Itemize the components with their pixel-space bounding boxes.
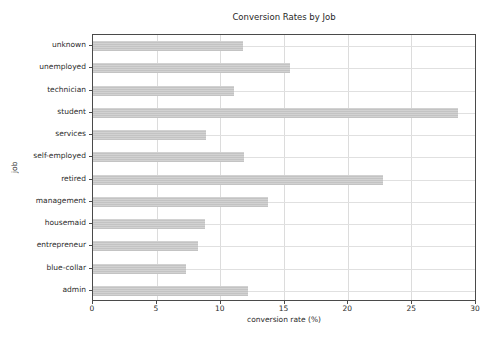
y-tick-mark (89, 179, 92, 180)
bar-technician (93, 86, 234, 96)
bar-admin (93, 286, 248, 296)
y-tick-mark (89, 134, 92, 135)
y-tick-label: housemaid (0, 218, 86, 228)
bar-management (93, 197, 268, 207)
y-tick-label: admin (0, 285, 86, 295)
bar-services (93, 130, 206, 140)
y-tick-mark (89, 90, 92, 91)
y-tick-mark (89, 45, 92, 46)
x-tick-label: 25 (406, 304, 416, 313)
x-tick-label: 10 (215, 304, 225, 313)
gridline-vertical (284, 35, 285, 300)
y-tick-mark (89, 201, 92, 202)
bar-student (93, 108, 458, 118)
y-tick-label: self-employed (0, 151, 86, 161)
bar-retired (93, 175, 383, 185)
y-tick-label: entrepreneur (0, 240, 86, 250)
figure: Conversion Rates by Job job conversion r… (0, 0, 504, 343)
x-tick-label: 30 (470, 304, 480, 313)
plot-area (92, 34, 476, 301)
y-tick-label: management (0, 196, 86, 206)
y-tick-mark (89, 268, 92, 269)
chart-title: Conversion Rates by Job (92, 12, 476, 22)
y-tick-label: student (0, 107, 86, 117)
y-tick-label: blue-collar (0, 263, 86, 273)
y-tick-mark (89, 245, 92, 246)
x-tick-label: 0 (90, 304, 95, 313)
y-tick-mark (89, 223, 92, 224)
gridline-vertical (348, 35, 349, 300)
bar-self-employed (93, 152, 244, 162)
y-tick-label: technician (0, 85, 86, 95)
gridline-vertical (157, 35, 158, 300)
bar-unemployed (93, 63, 290, 73)
y-tick-label: services (0, 129, 86, 139)
bar-entrepreneur (93, 241, 198, 251)
bar-housemaid (93, 219, 205, 229)
x-tick-label: 20 (343, 304, 353, 313)
bar-unknown (93, 41, 243, 51)
x-tick-label: 5 (153, 304, 158, 313)
y-tick-label: unknown (0, 40, 86, 50)
y-tick-label: unemployed (0, 62, 86, 72)
bar-blue-collar (93, 264, 186, 274)
x-tick-label: 15 (279, 304, 289, 313)
y-tick-label: retired (0, 174, 86, 184)
x-axis-label: conversion rate (%) (92, 315, 476, 324)
y-tick-mark (89, 156, 92, 157)
y-tick-mark (89, 112, 92, 113)
gridline-vertical (411, 35, 412, 300)
gridline-vertical (220, 35, 221, 300)
y-tick-mark (89, 290, 92, 291)
y-tick-mark (89, 67, 92, 68)
y-axis-label: job (8, 34, 20, 301)
